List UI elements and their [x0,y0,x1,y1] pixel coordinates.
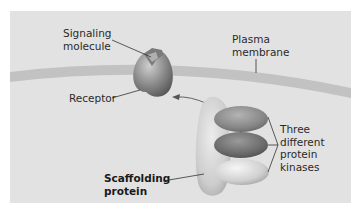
kinase-bottom [215,159,269,185]
kinase-middle [214,132,268,158]
background-panel [10,11,351,203]
label-signaling-molecule: Signaling molecule [63,27,115,52]
label-receptor: Receptor [69,92,117,104]
scaffolding-protein-diagram: Signaling molecule Plasma membrane Recep… [0,0,360,213]
kinase-top [214,106,268,132]
